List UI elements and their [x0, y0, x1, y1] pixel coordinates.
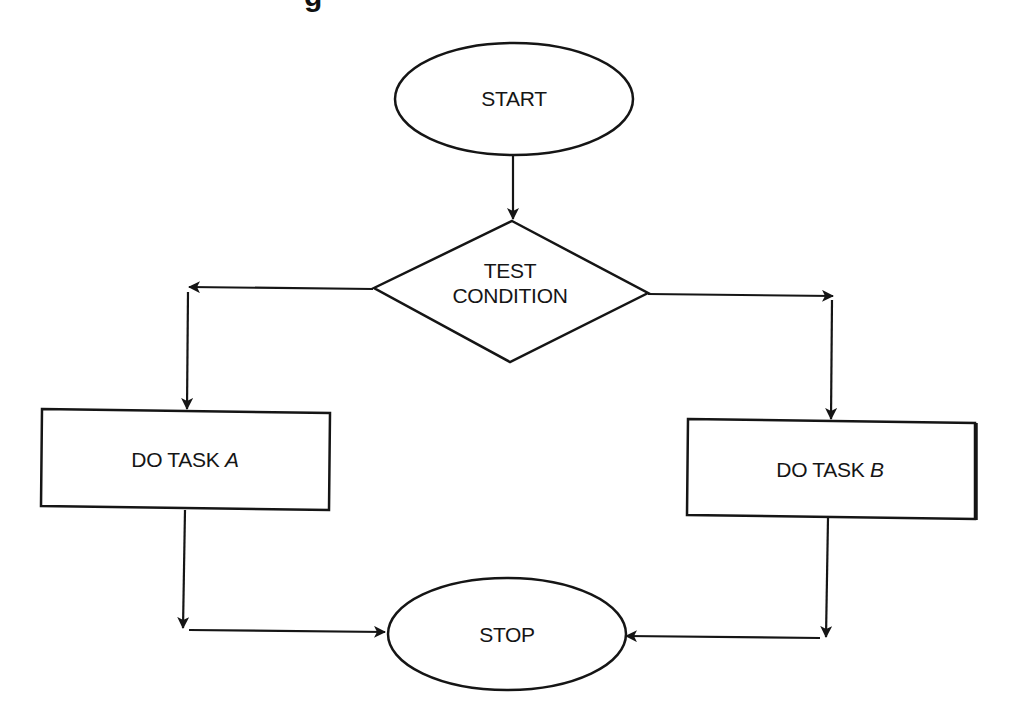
start-label: START: [414, 86, 614, 111]
arrow-left-down-to-task-a: [187, 292, 188, 409]
arrow-task-a-to-stop: [189, 630, 385, 632]
test-condition-label: TEST CONDITION: [410, 258, 610, 308]
arrow-right-down-to-task-b: [831, 300, 832, 419]
task-b-label-var: B: [870, 458, 884, 481]
task-b-label-prefix: DO TASK: [776, 458, 870, 481]
task-a-label-prefix: DO TASK: [131, 448, 225, 471]
test-label-line1: TEST: [410, 258, 610, 283]
arrow-task-b-down: [826, 518, 828, 637]
task-a-label: DO TASK A: [85, 447, 285, 472]
arrow-task-b-to-stop: [626, 636, 820, 638]
test-label-line2: CONDITION: [410, 283, 610, 308]
title-fragment: g: [304, 0, 322, 13]
task-b-label: DO TASK B: [730, 457, 930, 482]
arrow-test-to-right: [648, 294, 833, 296]
stop-label: STOP: [407, 622, 607, 647]
arrow-test-to-left: [189, 287, 373, 289]
arrow-task-a-down: [183, 510, 185, 628]
task-a-label-var: A: [225, 448, 239, 471]
